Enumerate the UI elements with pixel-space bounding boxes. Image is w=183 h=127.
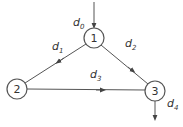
label-d2: d2 <box>125 37 137 52</box>
label-d4: d4 <box>167 97 178 112</box>
label-d0: d0 <box>73 16 85 31</box>
label-d3: d3 <box>90 68 101 83</box>
node-3-label: 3 <box>152 85 159 98</box>
node-2: 2 <box>7 79 27 99</box>
label-d1: d1 <box>52 40 63 55</box>
edge-1-3 <box>101 45 148 84</box>
node-1-label: 1 <box>91 32 98 45</box>
node-2-label: 2 <box>14 83 21 96</box>
edge-2-3 <box>27 89 145 90</box>
node-1: 1 <box>84 28 104 48</box>
network-diagram: 1 2 3 d0 d1 d2 d3 d4 <box>0 0 183 127</box>
node-3: 3 <box>145 81 165 101</box>
